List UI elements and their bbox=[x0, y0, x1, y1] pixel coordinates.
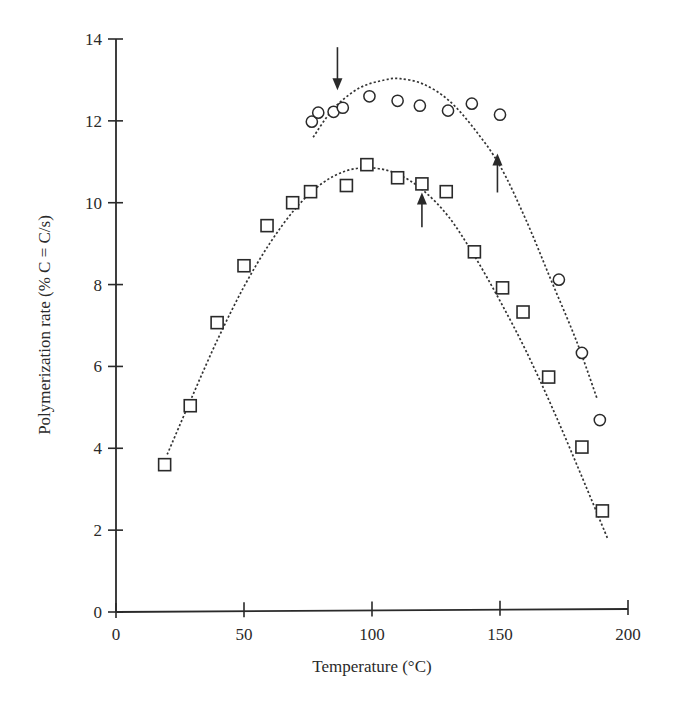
square-marker bbox=[543, 371, 555, 383]
square-marker bbox=[340, 180, 352, 192]
square-marker bbox=[184, 400, 196, 412]
y-tick-label: 0 bbox=[94, 603, 103, 622]
circle-marker bbox=[576, 347, 587, 358]
circle-marker bbox=[466, 98, 477, 109]
circle-marker bbox=[494, 109, 505, 120]
fit-curves bbox=[167, 78, 607, 538]
circle-marker bbox=[364, 91, 375, 102]
arrow-down-icon bbox=[332, 78, 342, 90]
x-tick-label: 100 bbox=[359, 625, 385, 644]
circles-fit-curve bbox=[313, 78, 597, 399]
square-marker bbox=[576, 441, 588, 453]
square-marker bbox=[392, 172, 404, 184]
x-tick-label: 0 bbox=[112, 625, 121, 644]
circle-marker bbox=[392, 95, 403, 106]
circle-marker bbox=[553, 274, 564, 285]
chart-plot: 02468101214050100150200 Temperature (°C)… bbox=[0, 0, 674, 711]
x-tick-label: 150 bbox=[487, 625, 513, 644]
y-tick-label: 14 bbox=[85, 30, 103, 49]
square-marker bbox=[238, 260, 250, 272]
x-tick-label: 200 bbox=[615, 625, 641, 644]
square-marker bbox=[305, 186, 317, 198]
square-marker bbox=[497, 282, 509, 294]
y-tick-label: 10 bbox=[85, 194, 102, 213]
y-tick-label: 6 bbox=[94, 357, 103, 376]
circle-marker bbox=[594, 414, 605, 425]
square-marker bbox=[159, 459, 171, 471]
square-marker bbox=[287, 197, 299, 209]
y-tick-label: 2 bbox=[94, 521, 103, 540]
arrow-up-icon bbox=[417, 192, 427, 204]
circle-marker bbox=[313, 107, 324, 118]
x-axis-title: Temperature (°C) bbox=[312, 657, 431, 676]
square-marker bbox=[596, 505, 608, 517]
arrow-up-icon bbox=[492, 154, 502, 166]
x-tick-label: 50 bbox=[236, 625, 253, 644]
y-tick-label: 8 bbox=[94, 276, 103, 295]
circle-marker bbox=[442, 105, 453, 116]
squares-fit-curve bbox=[167, 168, 607, 539]
square-marker bbox=[468, 246, 480, 258]
square-marker bbox=[440, 186, 452, 198]
circle-marker bbox=[414, 100, 425, 111]
square-marker bbox=[261, 220, 273, 232]
chart: 02468101214050100150200 Temperature (°C)… bbox=[0, 0, 674, 711]
square-marker bbox=[361, 159, 373, 171]
data-markers bbox=[159, 91, 609, 517]
axes: 02468101214050100150200 bbox=[85, 30, 641, 644]
arrow-annotations bbox=[332, 47, 502, 227]
y-axis-title: Polymerization rate (% C = C/s) bbox=[35, 215, 54, 435]
y-tick-label: 4 bbox=[94, 439, 103, 458]
circle-marker bbox=[337, 102, 348, 113]
square-marker bbox=[517, 306, 529, 318]
square-marker bbox=[416, 178, 428, 190]
y-tick-label: 12 bbox=[85, 112, 102, 131]
square-marker bbox=[211, 317, 223, 329]
